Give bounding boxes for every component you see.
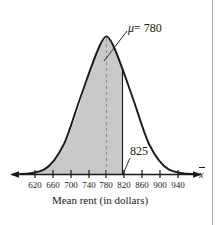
normal-curve-figure: μ= 780 825 x 620 660 700 740 780 820 860… [0,0,218,225]
x-bar-axis-symbol: x [199,167,205,180]
mean-annotation-value: = 780 [134,21,162,35]
tick-label-740: 740 [82,180,96,190]
tick-label-940: 940 [171,180,185,190]
tick-label-700: 700 [64,180,78,190]
tick-label-860: 860 [135,180,149,190]
x-axis-left-arrow [10,171,19,178]
x-bar-overline [199,167,205,168]
cut-leader-line [123,158,130,174]
tick-label-780: 780 [99,180,113,190]
cut-annotation: 825 [130,144,148,159]
tick-label-660: 660 [46,180,60,190]
x-axis-caption: Mean rent (in dollars) [0,194,200,206]
mean-annotation: μ= 780 [128,21,162,36]
tick-label-620: 620 [28,180,42,190]
x-bar-letter: x [199,169,203,180]
distribution-plot [0,0,218,225]
tick-label-900: 900 [153,180,167,190]
tick-label-820: 820 [117,180,131,190]
